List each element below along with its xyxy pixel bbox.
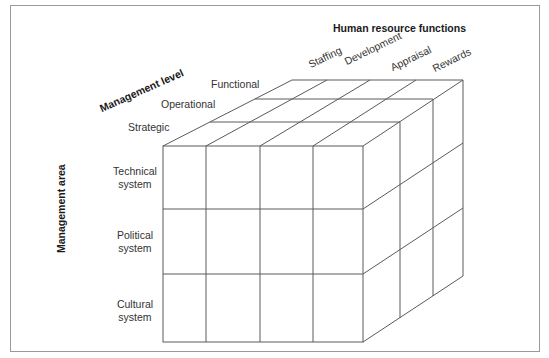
area-label-cultural-line2: system bbox=[110, 311, 160, 324]
area-axis-title: Management area bbox=[55, 164, 68, 253]
level-label-functional: Functional bbox=[211, 78, 259, 91]
level-label-strategic: Strategic bbox=[128, 121, 169, 134]
level-label-operational: Operational bbox=[161, 98, 215, 111]
area-label-political: Political system bbox=[110, 229, 160, 255]
area-label-technical: Technical system bbox=[110, 165, 160, 191]
front-face bbox=[163, 146, 363, 342]
area-label-political-line1: Political bbox=[110, 229, 160, 242]
area-label-cultural: Cultural system bbox=[110, 298, 160, 324]
area-label-technical-line1: Technical bbox=[110, 165, 160, 178]
area-label-political-line2: system bbox=[110, 242, 160, 255]
area-label-cultural-line1: Cultural bbox=[110, 298, 160, 311]
area-label-technical-line2: system bbox=[110, 178, 160, 191]
